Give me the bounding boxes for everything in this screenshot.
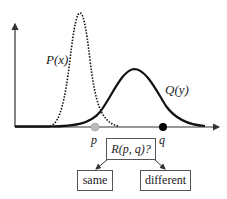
point-q-label: q: [159, 133, 165, 147]
point-q: [159, 123, 167, 131]
arrow-to-different: [155, 160, 165, 169]
outcome-different-box: different: [140, 170, 191, 191]
point-p: [91, 123, 99, 131]
point-p-label: p: [90, 133, 97, 147]
q-curve-label: Q(y): [165, 82, 189, 97]
q-curve: [50, 69, 205, 127]
p-curve-label: P(x): [45, 52, 68, 67]
outcome-same-box: same: [77, 170, 113, 191]
distribution-diagram: P(x) Q(y) p q: [0, 0, 227, 199]
p-curve: [50, 13, 118, 126]
question-box: R(p, q)?: [106, 138, 156, 160]
arrow-to-same: [96, 160, 107, 169]
